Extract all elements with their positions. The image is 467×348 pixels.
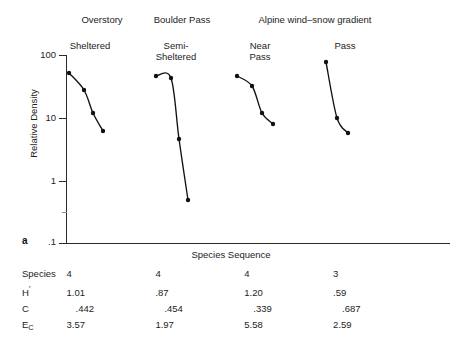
series-line bbox=[237, 76, 273, 124]
series-near-pass bbox=[235, 74, 275, 126]
stats-row: EC3.571.975.582.59 bbox=[22, 317, 422, 334]
stats-cell: 2.59 bbox=[333, 317, 422, 334]
series-sheltered bbox=[67, 71, 105, 133]
stats-cell: .442 bbox=[67, 301, 156, 317]
data-point bbox=[67, 71, 71, 75]
stats-cell: 1.01 bbox=[67, 282, 156, 301]
data-point bbox=[346, 131, 350, 135]
stats-cell: 1.97 bbox=[155, 317, 244, 334]
stats-cell: 4 bbox=[155, 266, 244, 282]
series-line bbox=[326, 62, 348, 133]
data-point bbox=[186, 198, 190, 202]
data-point bbox=[91, 111, 95, 115]
data-point bbox=[154, 74, 158, 78]
data-point bbox=[271, 122, 275, 126]
stats-row-label: Species bbox=[22, 266, 67, 282]
data-point bbox=[250, 84, 254, 88]
stats-cell: 1.20 bbox=[244, 282, 333, 301]
data-point bbox=[82, 88, 86, 92]
stats-cell: 4 bbox=[244, 266, 333, 282]
stats-cell: .339 bbox=[244, 301, 333, 317]
stats-cell: .87 bbox=[155, 282, 244, 301]
stats-cell: 5.58 bbox=[244, 317, 333, 334]
series-line bbox=[69, 73, 103, 131]
stats-cell: .687 bbox=[333, 301, 422, 317]
stats-row: C.442.454.339.687 bbox=[22, 301, 422, 317]
stats-table: Species4443H′1.01.871.20.59C.442.454.339… bbox=[22, 266, 442, 333]
stats-row: H′1.01.871.20.59 bbox=[22, 282, 422, 301]
stats-row: Species4443 bbox=[22, 266, 422, 282]
series-pass bbox=[324, 60, 350, 135]
stats-cell: 4 bbox=[67, 266, 156, 282]
stats-row-label: C bbox=[22, 301, 67, 317]
data-point bbox=[169, 76, 173, 80]
stats-row-label: EC bbox=[22, 317, 67, 334]
stats-cell: 3 bbox=[333, 266, 422, 282]
figure-panel: Overstory Boulder Pass Alpine wind–snow … bbox=[0, 0, 467, 348]
stats-cell: .59 bbox=[333, 282, 422, 301]
stats-cell: .454 bbox=[155, 301, 244, 317]
series-semi-sheltered bbox=[154, 73, 190, 202]
stats-cell: 3.57 bbox=[67, 317, 156, 334]
data-point bbox=[101, 129, 105, 133]
series-line bbox=[156, 73, 188, 200]
data-point bbox=[177, 137, 181, 141]
stats-row-label: H′ bbox=[22, 282, 67, 301]
data-point bbox=[324, 60, 328, 64]
data-point bbox=[260, 111, 264, 115]
data-point bbox=[235, 74, 239, 78]
data-point bbox=[335, 116, 339, 120]
